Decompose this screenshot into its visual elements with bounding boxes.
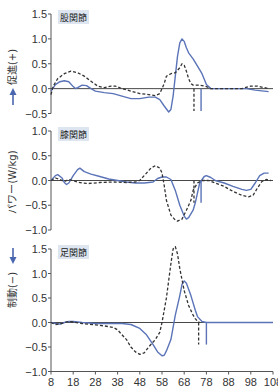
y-tick-label: 0.0	[32, 175, 47, 187]
x-tick-label: 88	[222, 376, 234, 388]
x-tick-label: 68	[178, 376, 190, 388]
ankle-joint-panel: 1.51.00.50.0−0.5−1.0足関節	[25, 243, 273, 378]
dashed-series-line	[51, 64, 269, 96]
x-tick-label: 8	[48, 376, 54, 388]
y-tick-label: 0.5	[32, 150, 47, 162]
y-label-positive: 促進(+)	[6, 49, 18, 85]
x-tick-label: 38	[111, 376, 123, 388]
down-arrow-icon-head	[10, 257, 17, 264]
up-arrow-icon-head	[10, 88, 17, 95]
knee-joint-panel: 1.00.50.0−0.5−1.0膝関節	[25, 125, 273, 236]
y-tick-label: 0.0	[32, 317, 47, 329]
y-tick-label: −1.0	[25, 224, 47, 236]
x-tick-label: 108	[264, 376, 278, 388]
y-tick-label: −0.5	[25, 108, 47, 120]
joint-power-chart: 促進(+)パワー(W/kg)制動(−) 1.51.00.50.0−0.5股関節 …	[0, 0, 278, 389]
x-tick-label: 78	[200, 376, 212, 388]
y-tick-label: 1.0	[32, 125, 47, 137]
y-label-negative: 制動(−)	[6, 272, 18, 308]
panel-label: 股関節	[60, 12, 87, 23]
y-tick-label: −1.0	[25, 366, 47, 378]
x-tick-label: 98	[245, 376, 257, 388]
x-tick-label: 28	[89, 376, 101, 388]
y-tick-label: 0.5	[32, 292, 47, 304]
x-axis: 8182838485868788898108	[48, 372, 278, 388]
y-tick-label: −0.5	[25, 341, 47, 353]
dashed-series-line	[51, 247, 200, 355]
y-tick-label: 0.5	[32, 58, 47, 70]
panel-label: 膝関節	[60, 129, 87, 140]
y-axis-label-group: 促進(+)パワー(W/kg)制動(−)	[6, 49, 18, 308]
y-tick-label: 1.5	[32, 8, 47, 20]
x-tick-label: 48	[134, 376, 146, 388]
hip-joint-panel: 1.51.00.50.0−0.5股関節	[25, 8, 273, 120]
y-tick-label: −0.5	[25, 199, 47, 211]
dashed-series-line	[51, 166, 271, 221]
x-tick-label: 18	[67, 376, 79, 388]
x-tick-label: 58	[156, 376, 168, 388]
y-tick-label: 1.0	[32, 33, 47, 45]
solid-series-line	[51, 281, 273, 356]
y-tick-label: 1.0	[32, 268, 47, 280]
y-label-main: パワー(W/kg)	[7, 150, 18, 213]
solid-series-line	[51, 168, 269, 219]
y-tick-label: 1.5	[32, 243, 47, 255]
panel-label: 足関節	[60, 247, 87, 258]
y-tick-label: 0.0	[32, 83, 47, 95]
